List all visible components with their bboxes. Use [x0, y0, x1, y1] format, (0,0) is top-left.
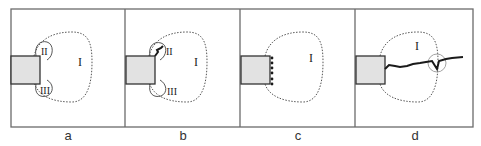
region-label-i: I	[78, 55, 82, 69]
region-label-ii: II	[166, 46, 173, 57]
panel-label-b: b	[173, 128, 193, 143]
region-label-ii: II	[41, 46, 48, 57]
panel-label-c: c	[288, 128, 308, 143]
indenter-block	[11, 56, 40, 84]
crack-initiation-points	[271, 57, 274, 86]
region-label-i: I	[415, 39, 419, 53]
indenter-block	[126, 56, 155, 84]
panel-a: I II III	[11, 32, 92, 102]
panel-label-d: d	[405, 128, 425, 143]
region-label-i: I	[194, 55, 198, 69]
crack-path	[385, 57, 463, 69]
crack-path	[155, 46, 163, 56]
panel-label-a: a	[58, 128, 78, 143]
indenter-block	[241, 56, 270, 84]
plastic-zone-boundary	[265, 32, 323, 102]
indenter-block	[356, 56, 385, 84]
figure-canvas: I II III I II III I I	[0, 0, 481, 146]
region-label-i: I	[309, 51, 313, 65]
panel-d: I	[356, 32, 463, 102]
region-label-iii: III	[167, 86, 177, 97]
region-label-iii: III	[40, 85, 50, 96]
panel-b: I II III	[126, 32, 207, 102]
panel-c: I	[241, 32, 323, 102]
